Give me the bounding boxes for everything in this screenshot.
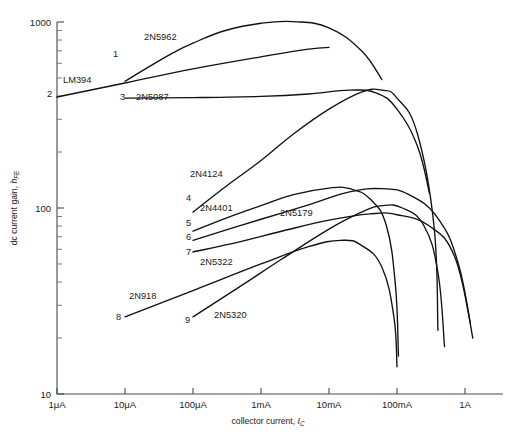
curve-2n5322 bbox=[193, 213, 470, 323]
curve-label-2n5962: 2N5962 bbox=[144, 32, 177, 42]
curve-index-3: 3 bbox=[120, 92, 125, 102]
curve-annotations: 12N59622LM39432N508742N412452N440162N517… bbox=[47, 32, 313, 325]
curve-label-2n4401: 2N4401 bbox=[200, 203, 233, 213]
curve-label-2n918: 2N918 bbox=[129, 291, 156, 301]
curve-2n5962 bbox=[125, 21, 382, 81]
curve-label-2n5322: 2N5322 bbox=[200, 257, 233, 267]
curve-label-2n5320: 2N5320 bbox=[214, 310, 247, 320]
curve-label-2n5087: 2N5087 bbox=[136, 92, 169, 102]
x-tick-label: 1A bbox=[459, 399, 471, 410]
x-tick-label: 1mA bbox=[251, 399, 271, 410]
x-tick-label: 100μA bbox=[179, 399, 207, 410]
y-tick-label: 100 bbox=[35, 203, 51, 214]
curve-index-1: 1 bbox=[113, 49, 118, 59]
curve-2n5087 bbox=[125, 90, 429, 193]
tick-labels: 1μA10μA100μA1mA10mA100mA1A100010010 bbox=[30, 17, 472, 411]
curve-2n918 bbox=[125, 240, 397, 367]
figure-container: 1μA10μA100μA1mA10mA100mA1A100010010 12N5… bbox=[0, 0, 508, 436]
chart-plot: 1μA10μA100μA1mA10mA100mA1A100010010 12N5… bbox=[0, 0, 508, 436]
curve-index-2: 2 bbox=[47, 89, 52, 99]
y-axis-title: dc current gain, hFE bbox=[9, 170, 20, 245]
curve-label-lm394: LM394 bbox=[63, 75, 91, 85]
curve-index-4: 4 bbox=[186, 193, 191, 203]
x-tick-label: 10mA bbox=[317, 399, 342, 410]
curve-label-2n5179: 2N5179 bbox=[280, 208, 313, 218]
curve-label-2n4124: 2N4124 bbox=[190, 169, 223, 179]
curve-index-8: 8 bbox=[116, 312, 121, 322]
curve-index-5: 5 bbox=[186, 218, 191, 228]
x-tick-label: 10μA bbox=[114, 399, 137, 410]
curve-index-7: 7 bbox=[186, 247, 191, 257]
y-tick-label: 10 bbox=[40, 389, 51, 400]
curve-index-6: 6 bbox=[186, 232, 191, 242]
x-axis-title: collector current, IC bbox=[232, 416, 305, 427]
x-tick-label: 1μA bbox=[48, 399, 66, 410]
curve-index-9: 9 bbox=[185, 315, 190, 325]
x-tick-label: 100mA bbox=[382, 399, 413, 410]
y-tick-label: 1000 bbox=[30, 17, 51, 28]
curve-lm394 bbox=[57, 47, 329, 97]
